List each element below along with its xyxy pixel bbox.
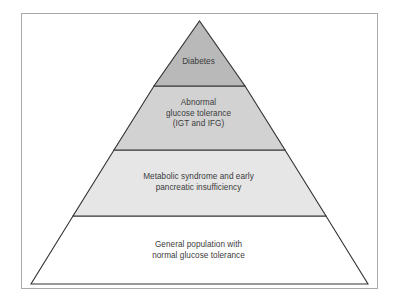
pyramid-tier-2-label: Abnormal glucose tolerance (IGT and IFG) — [0, 98, 397, 130]
tier-2-line-1: Abnormal — [0, 98, 397, 109]
pyramid-tier-4-label: General population with normal glucose t… — [0, 240, 397, 261]
pyramid-tier-1-shape — [154, 21, 245, 86]
pyramid-tier-3-label: Metabolic syndrome and early pancreatic … — [0, 172, 397, 193]
tier-1-line-1: Diabetes — [0, 57, 397, 68]
tier-2-line-2: glucose tolerance — [0, 109, 397, 120]
tier-4-line-2: normal glucose tolerance — [0, 251, 397, 262]
tier-3-line-1: Metabolic syndrome and early — [0, 172, 397, 183]
tier-2-line-3: (IGT and IFG) — [0, 119, 397, 130]
tier-3-line-2: pancreatic insufficiency — [0, 183, 397, 194]
pyramid-figure: Diabetes Abnormal glucose tolerance (IGT… — [0, 0, 397, 308]
pyramid-tier-1-label: Diabetes — [0, 57, 397, 68]
tier-4-line-1: General population with — [0, 240, 397, 251]
